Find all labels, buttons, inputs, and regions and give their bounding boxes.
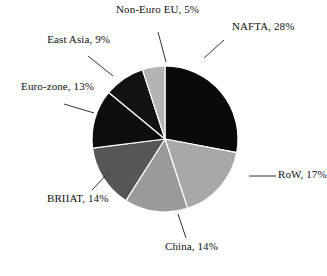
pie-label-briiat-line2: 14% — [88, 192, 108, 204]
pie-label-china-line2: 14% — [198, 240, 218, 252]
pie-label-briiat: BRIIAT, 14% — [47, 192, 107, 205]
pie-label-china: China, 14% — [165, 240, 218, 253]
pie-slice-group — [92, 66, 238, 212]
leader-line-nafta — [204, 40, 224, 58]
leader-line-eastasia — [88, 56, 113, 76]
pie-label-eastasia-line1: East Asia, — [47, 33, 92, 45]
pie-label-nafta-line2: 28% — [274, 20, 294, 32]
pie-label-row: RoW, 17% — [278, 168, 327, 181]
pie-label-briiat-line1: BRIIAT, — [47, 192, 85, 204]
leader-line-china — [178, 214, 186, 238]
pie-label-noneuroeu-line2: EU, 5% — [164, 3, 199, 15]
pie-label-nafta-line1: NAFTA, — [232, 20, 271, 32]
pie-label-eastasia: East Asia, 9% — [42, 33, 110, 46]
pie-label-row-line1: RoW, — [278, 168, 303, 180]
leader-line-noneuroeu — [158, 32, 166, 62]
pie-label-china-line1: China, — [165, 240, 195, 252]
pie-label-nafta: NAFTA, 28% — [232, 20, 294, 33]
pie-label-row-line2: 17% — [306, 168, 326, 180]
pie-label-noneuroeu: Non-Euro EU, 5% — [116, 3, 198, 16]
pie-label-eurozone: Euro-zone, 13% — [10, 80, 94, 93]
pie-label-eurozone-line1: Euro-zone, — [21, 80, 71, 92]
pie-label-noneuroeu-line1: Non-Euro — [116, 3, 161, 15]
pie-label-eurozone-line2: 13% — [74, 80, 94, 92]
pie-label-eastasia-line2: 9% — [95, 33, 110, 45]
leader-line-eurozone — [64, 104, 94, 113]
pie-slice-nafta — [165, 66, 238, 153]
